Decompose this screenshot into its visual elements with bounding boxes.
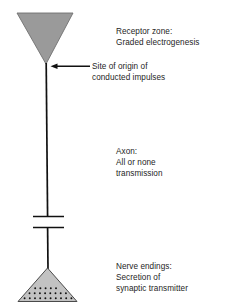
axon-label-line1: Axon: <box>116 146 163 157</box>
axon-label-line3: transmission <box>116 168 163 179</box>
site-of-origin-label-line2: conducted impulses <box>92 72 165 83</box>
receptor-zone-label-line2: Graded electrogenesis <box>116 37 199 48</box>
receptor-zone-label-line1: Receptor zone: <box>116 26 199 37</box>
site-of-origin-label: Site of origin of conducted impulses <box>92 61 165 83</box>
nerve-endings-label-line2: Secretion of <box>116 272 188 283</box>
nerve-endings-label-line3: synaptic transmitter <box>116 283 188 294</box>
nerve-ending-triangle <box>18 268 77 302</box>
receptor-zone-triangle <box>17 13 73 64</box>
axon-line-upper <box>46 63 47 217</box>
receptor-zone-label: Receptor zone: Graded electrogenesis <box>116 26 199 48</box>
arrow-head-icon <box>51 63 58 69</box>
axon-label-line2: All or none <box>116 157 163 168</box>
nerve-endings-label-line1: Nerve endings: <box>116 261 188 272</box>
site-of-origin-label-line1: Site of origin of <box>92 61 165 72</box>
nerve-endings-label: Nerve endings: Secretion of synaptic tra… <box>116 261 188 295</box>
axon-label: Axon: All or none transmission <box>116 146 163 180</box>
site-of-origin-arrow <box>51 63 91 69</box>
